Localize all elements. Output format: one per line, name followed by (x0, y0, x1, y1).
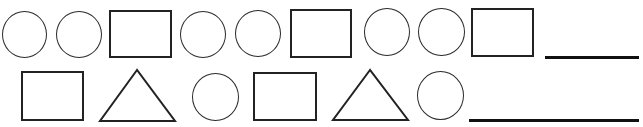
circle-shape (192, 73, 239, 121)
answer-blank-line[interactable] (545, 56, 639, 59)
circle-shape (364, 8, 410, 56)
triangle-shape (331, 68, 411, 123)
circle-shape (235, 10, 281, 57)
square-shape (253, 72, 317, 121)
square-shape (471, 8, 534, 57)
square-shape (290, 9, 352, 58)
pattern-worksheet: Pattern row 1 Pattern row 2 (0, 0, 643, 127)
square-shape (21, 71, 84, 121)
answer-blank-line[interactable] (469, 119, 639, 122)
triangle-shape (98, 68, 178, 123)
circle-shape (417, 71, 464, 120)
circle-shape (180, 11, 226, 58)
square-shape (109, 10, 172, 58)
circle-shape (418, 8, 465, 56)
circle-shape (2, 11, 47, 58)
circle-shape (56, 11, 102, 58)
